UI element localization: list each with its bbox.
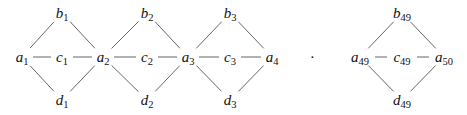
edge-b1-a2	[70, 22, 95, 48]
edge-a2-b2	[111, 21, 138, 48]
node-base-label: a	[435, 49, 443, 65]
edge-b2-a3	[155, 22, 180, 48]
node-subscript: 1	[63, 99, 68, 110]
node-subscript: 3	[231, 99, 236, 110]
node-subscript: 3	[231, 56, 236, 67]
node-subscript: 2	[104, 56, 109, 67]
node-a4: a4	[266, 49, 280, 67]
node-subscript: 49	[400, 56, 411, 67]
node-subscript: 3	[189, 56, 194, 67]
edge-a1-d1	[30, 66, 54, 91]
node-d3: d3	[224, 92, 237, 110]
node-base-label: a	[351, 49, 359, 65]
node-base-label: a	[266, 49, 274, 65]
node-subscript: 4	[273, 56, 279, 67]
node-subscript: 2	[148, 99, 153, 110]
node-subscript: 2	[148, 56, 153, 67]
edge-d3-a4	[238, 66, 263, 92]
edge-d2-a3	[155, 66, 179, 92]
node-subscript: 49	[401, 99, 412, 110]
node-subscript: 1	[63, 12, 68, 23]
edge-a49-b49	[368, 22, 393, 49]
node-c3: c3	[224, 49, 236, 67]
graph-diagram: a1b1c1d1a2b2c2d2a3b3c3d3a4a49b49c49d49a5…	[0, 0, 467, 115]
edge-b3-a4	[238, 22, 263, 49]
node-subscript: 49	[401, 12, 412, 23]
node-d1: d1	[56, 92, 69, 110]
node-c1: c1	[56, 49, 68, 67]
node-b1: b1	[56, 5, 69, 23]
node-b3: b3	[224, 5, 237, 23]
node-a1: a1	[16, 49, 29, 67]
edge-d1-a2	[70, 66, 94, 92]
node-a49: a49	[351, 49, 369, 67]
ellipsis-dot: ·	[310, 49, 314, 65]
node-base-label: a	[97, 49, 105, 65]
edge-d49-a50	[410, 66, 435, 92]
node-a2: a2	[97, 49, 110, 67]
edge-a3-b3	[196, 22, 221, 49]
node-subscript: 2	[148, 12, 153, 23]
node-subscript: 1	[23, 56, 28, 67]
node-a3: a3	[182, 49, 195, 67]
node-base-label: a	[182, 49, 190, 65]
edge-a49-d49	[368, 66, 393, 92]
edge-a1-b1	[30, 22, 54, 48]
edge-a3-d3	[196, 66, 221, 92]
node-b49: b49	[393, 5, 411, 23]
edge-b49-a50	[410, 22, 435, 49]
node-c2: c2	[141, 49, 153, 67]
edge-a2-d2	[112, 65, 139, 91]
nodes: a1b1c1d1a2b2c2d2a3b3c3d3a4a49b49c49d49a5…	[16, 5, 453, 110]
node-base-label: a	[16, 49, 24, 65]
node-c49: c49	[393, 49, 410, 67]
node-d49: d49	[393, 92, 411, 110]
node-subscript: 3	[231, 12, 236, 23]
node-d2: d2	[141, 92, 154, 110]
node-subscript: 50	[443, 56, 454, 67]
node-subscript: 49	[359, 56, 370, 67]
node-b2: b2	[141, 5, 154, 23]
node-subscript: 1	[63, 56, 68, 67]
node-a50: a50	[435, 49, 453, 67]
